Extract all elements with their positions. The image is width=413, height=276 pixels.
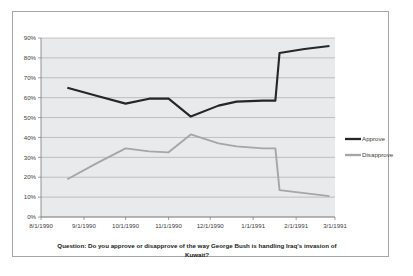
y-tick-label: 50% <box>24 114 37 121</box>
chart-legend: Approve Disapprove <box>345 135 394 158</box>
chart-figure: 0%10%20%30%40%50%60%70%80%90% 8/1/19909/… <box>0 0 413 276</box>
chart-plot-wrapper: 0%10%20%30%40%50%60%70%80%90% 8/1/19909/… <box>0 0 413 276</box>
x-tick-label: 2/1/1991 <box>284 222 308 229</box>
legend-label-disapprove: Disapprove <box>362 151 394 158</box>
chart-caption-line-1: Question: Do you approve or disapprove o… <box>57 242 337 249</box>
y-tick-label: 20% <box>24 173 37 180</box>
x-tick-label: 9/1/1990 <box>72 222 96 229</box>
y-tick-label: 30% <box>24 154 37 161</box>
approval-line-chart: 0%10%20%30%40%50%60%70%80%90% 8/1/19909/… <box>0 0 413 276</box>
y-tick-label: 40% <box>24 134 37 141</box>
y-tick-label: 60% <box>24 94 37 101</box>
x-tick-label: 3/1/1991 <box>323 222 347 229</box>
x-tick-label: 10/1/1990 <box>112 222 140 229</box>
x-tick-label: 11/1/1990 <box>155 222 182 229</box>
chart-caption-line-2: Kuwait? <box>185 251 209 258</box>
y-tick-label: 70% <box>24 74 37 81</box>
legend-label-approve: Approve <box>362 135 386 142</box>
x-tick-label: 12/1/1990 <box>197 222 225 229</box>
y-tick-label: 80% <box>24 54 37 61</box>
y-tick-label: 10% <box>24 193 37 200</box>
y-tick-label: 90% <box>24 34 37 41</box>
y-tick-label: 0% <box>27 213 36 220</box>
x-tick-label: 8/1/1990 <box>29 222 53 229</box>
x-axis-ticks: 8/1/19909/1/199010/1/199011/1/199012/1/1… <box>29 217 347 229</box>
x-tick-label: 1/1/1991 <box>241 222 265 229</box>
y-axis-ticks: 0%10%20%30%40%50%60%70%80%90% <box>24 34 41 220</box>
plot-area-background <box>41 38 335 217</box>
